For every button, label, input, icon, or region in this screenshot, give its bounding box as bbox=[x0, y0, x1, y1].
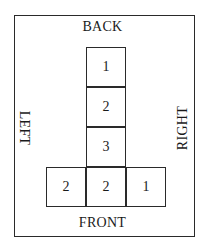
grid-cell-r1-c1: 2 bbox=[86, 87, 126, 127]
label-front: FRONT bbox=[0, 215, 205, 231]
grid-cell-r0-c1: 1 bbox=[86, 47, 126, 87]
label-left: LEFT bbox=[16, 111, 32, 146]
grid-cell-r2-c1: 3 bbox=[86, 127, 126, 167]
grid-cell-r3-c2: 1 bbox=[126, 167, 166, 207]
grid-cell-r3-c1: 2 bbox=[86, 167, 126, 207]
grid-cell-r3-c0: 2 bbox=[46, 167, 86, 207]
label-right: RIGHT bbox=[175, 106, 191, 150]
label-back: BACK bbox=[0, 19, 205, 35]
